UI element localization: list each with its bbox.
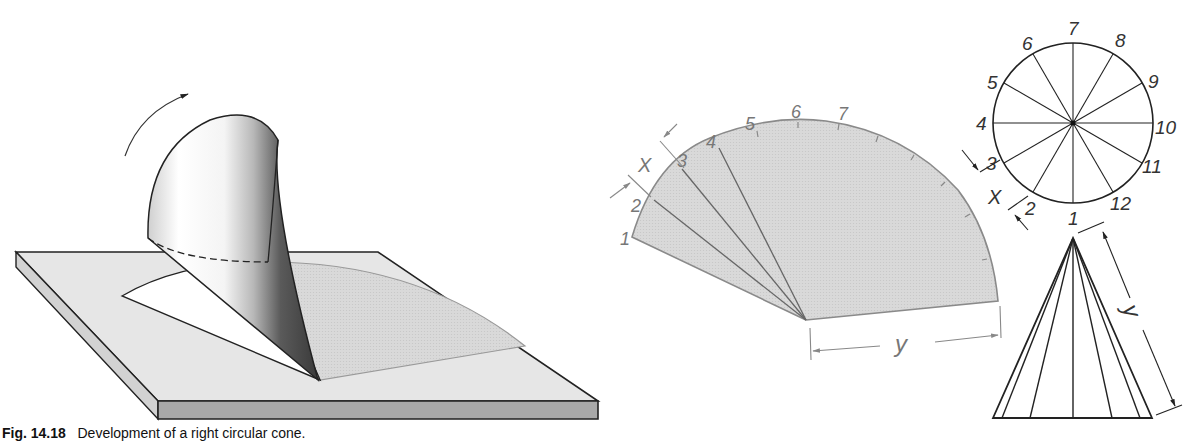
top-label-8: 8 bbox=[1115, 30, 1126, 51]
top-label-11: 11 bbox=[1142, 156, 1162, 177]
top-label-9: 9 bbox=[1148, 71, 1159, 92]
dev-label-4: 4 bbox=[706, 132, 716, 152]
top-label-1: 1 bbox=[1068, 208, 1079, 229]
isometric-view bbox=[16, 94, 598, 419]
top-label-7: 7 bbox=[1068, 18, 1080, 39]
top-label-4: 4 bbox=[976, 113, 987, 134]
top-label-5: 5 bbox=[987, 72, 998, 93]
plate-side-front bbox=[158, 401, 598, 419]
top-label-2: 2 bbox=[1024, 198, 1036, 219]
development-sector bbox=[632, 119, 998, 320]
dev-dimension-y-label: y bbox=[893, 330, 909, 357]
dev-label-5: 5 bbox=[745, 114, 756, 134]
dev-label-6: 6 bbox=[791, 102, 802, 122]
figure-caption: Fig. 14.18 Development of a right circul… bbox=[2, 425, 305, 441]
top-dimension-x-label: X bbox=[987, 186, 1002, 208]
dev-dimension-x-label: X bbox=[637, 154, 652, 176]
caption-text: Development of a right circular cone. bbox=[77, 425, 305, 441]
top-view: 1 2 3 4 5 6 7 8 9 10 11 12 X bbox=[962, 18, 1177, 230]
dev-label-1: 1 bbox=[620, 229, 630, 249]
front-dimension-y-label: y bbox=[1117, 299, 1148, 323]
front-view: y bbox=[993, 222, 1182, 418]
top-label-3: 3 bbox=[986, 153, 997, 174]
top-label-10: 10 bbox=[1155, 117, 1177, 138]
dev-label-7: 7 bbox=[838, 104, 849, 124]
top-label-12: 12 bbox=[1110, 193, 1132, 214]
dev-label-2: 2 bbox=[630, 196, 641, 216]
center-point bbox=[1071, 121, 1076, 126]
top-label-6: 6 bbox=[1022, 33, 1033, 54]
development-view: 1 2 3 4 5 6 7 X y bbox=[610, 102, 1001, 360]
caption-number: Fig. 14.18 bbox=[2, 425, 66, 441]
